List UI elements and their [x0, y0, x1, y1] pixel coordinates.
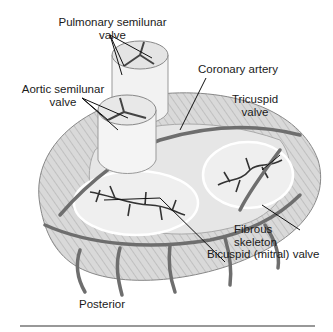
label-pulmonary-semilunar-valve: Pulmonary semilunar valve [40, 16, 185, 42]
label-line: valve [18, 96, 108, 109]
label-line: Aortic semilunar [18, 83, 108, 96]
label-bicuspid-mitral-valve: Bicuspid (mitral) valve [207, 248, 319, 261]
label-coronary-artery: Coronary artery [198, 63, 278, 76]
label-posterior: Posterior [79, 298, 125, 311]
label-line: Tricuspid [220, 93, 290, 106]
heart-valves-illustration [0, 0, 333, 332]
label-line: valve [40, 29, 185, 42]
label-aortic-semilunar-valve: Aortic semilunar valve [18, 83, 108, 109]
label-line: Fibrous [234, 223, 277, 236]
label-tricuspid-valve: Tricuspid valve [220, 93, 290, 119]
label-line: valve [220, 106, 290, 119]
label-line: Pulmonary semilunar [40, 16, 185, 29]
label-fibrous-skeleton: Fibrous skeleton [234, 223, 277, 249]
